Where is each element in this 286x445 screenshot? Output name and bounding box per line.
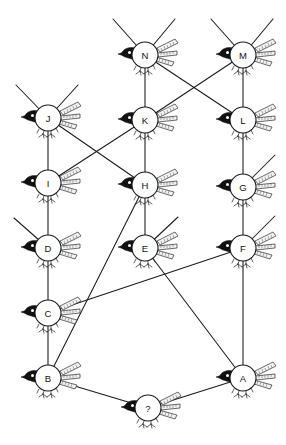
node-label: M [239,50,247,61]
graph-node[interactable]: N [118,39,178,75]
graph-node[interactable]: E [118,232,178,268]
diagram-canvas: NMJKLIHGDEFCBA? [0,0,286,445]
node-layer: NMJKLIHGDEFCBA? [21,39,276,428]
graph-node[interactable]: J [21,102,81,138]
node-label: F [240,243,246,254]
graph-node[interactable]: M [216,39,276,75]
graph-node[interactable]: I [21,167,81,203]
node-label: ? [145,403,150,414]
graph-node[interactable]: A [216,362,276,398]
graph-node[interactable]: K [118,104,178,140]
node-label: C [45,308,52,319]
graph-node[interactable]: H [118,169,178,205]
graph-node[interactable]: C [21,297,81,333]
graph-node[interactable]: G [216,171,276,207]
graph-node[interactable]: D [21,232,81,268]
graph-node[interactable]: F [216,232,276,268]
graph-node[interactable]: B [21,362,81,398]
node-label: K [142,115,149,126]
graph-node[interactable]: ? [121,392,181,428]
bird-pedigree-diagram: NMJKLIHGDEFCBA? [0,0,286,445]
node-label: L [240,115,245,126]
graph-edge [145,248,243,378]
node-label: E [142,243,148,254]
graph-edge [48,120,145,183]
node-label: A [240,373,247,384]
node-label: I [47,178,50,189]
node-label: G [239,182,246,193]
graph-edge [48,185,145,378]
node-label: N [142,50,149,61]
node-label: B [45,373,51,384]
graph-node[interactable]: L [216,104,276,140]
node-label: D [45,243,52,254]
node-label: H [142,180,149,191]
node-label: J [46,113,51,124]
